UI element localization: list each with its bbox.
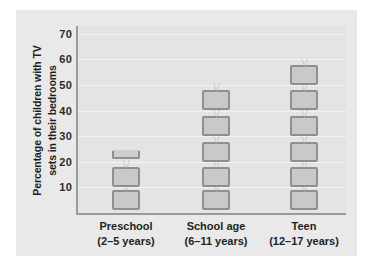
category-column-school-age: School age (6–11 years) <box>176 26 256 213</box>
tv-icon <box>202 90 230 110</box>
x-axis-label-preschool: Preschool (2–5 years) <box>97 219 155 249</box>
tv-icon <box>290 116 318 136</box>
tv-icon <box>202 190 230 210</box>
tv-icon <box>202 167 230 187</box>
x-axis-label-main: Teen <box>269 219 339 234</box>
y-axis-tick-label: 50 <box>59 79 72 91</box>
antenna-icon <box>298 58 310 67</box>
antenna-icon <box>120 160 132 169</box>
x-axis-label-sub: (12–17 years) <box>269 234 339 249</box>
antenna-icon <box>210 83 222 92</box>
category-column-preschool: Preschool (2–5 years) <box>86 26 166 213</box>
plot-area: 10203040506070 Preschool (2–5 years) Sch… <box>76 26 346 215</box>
tv-icon <box>202 116 230 136</box>
x-axis-label-school-age: School age (6–11 years) <box>185 219 248 249</box>
tv-icon <box>112 190 140 210</box>
tv-icon <box>290 90 318 110</box>
y-axis-tick-label: 10 <box>59 181 72 193</box>
y-axis-tick-label: 30 <box>59 130 72 142</box>
tv-icon <box>290 65 318 85</box>
tv-icon <box>290 142 318 162</box>
y-axis-tick-label: 60 <box>59 53 72 65</box>
x-axis-label-main: School age <box>185 219 248 234</box>
tv-icon <box>290 167 318 187</box>
tv-icon <box>290 190 318 210</box>
y-axis-tick-label: 20 <box>59 156 72 168</box>
tv-icon <box>202 142 230 162</box>
y-axis-tick-label: 70 <box>59 28 72 40</box>
tv-icon <box>112 167 140 187</box>
x-axis-label-sub: (2–5 years) <box>97 234 155 249</box>
x-axis-label-sub: (6–11 years) <box>185 234 248 249</box>
tv-icon <box>112 150 140 159</box>
x-axis-label-main: Preschool <box>97 219 155 234</box>
x-axis-label-teen: Teen (12–17 years) <box>269 219 339 249</box>
chart-figure: Percentage of children with TV sets in t… <box>0 0 380 269</box>
category-column-teen: Teen (12–17 years) <box>264 26 344 213</box>
y-axis-tick-label: 40 <box>59 105 72 117</box>
